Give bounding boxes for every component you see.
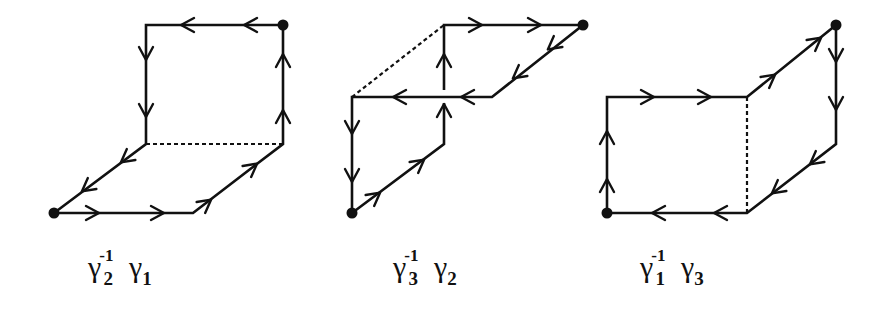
subscript: 1 <box>655 268 665 289</box>
path-segment <box>607 25 836 213</box>
label-gamma1inv-gamma3: γ-11γ3 <box>640 252 704 282</box>
basepoint-dot <box>278 20 289 31</box>
arrowhead-icon <box>197 200 212 213</box>
path-segment <box>54 25 283 213</box>
basepoint-dot <box>347 208 358 219</box>
basepoint-dot <box>602 208 613 219</box>
basepoint-dot <box>578 20 589 31</box>
panel-gamma2inv-gamma1 <box>49 18 291 220</box>
basepoint-dot <box>831 20 842 31</box>
arrowhead-icon <box>121 149 136 162</box>
dashed-edge <box>352 25 444 97</box>
gamma-symbol: γ <box>681 250 694 283</box>
inverse-exponent: -1 <box>651 246 665 265</box>
panel-gamma3inv-gamma2 <box>345 18 589 219</box>
path-segment <box>352 25 583 213</box>
subscript: 2 <box>447 268 457 289</box>
panel-gamma1inv-gamma3 <box>600 20 843 221</box>
subscript: 1 <box>142 268 152 289</box>
arrowhead-icon <box>366 193 381 206</box>
arrowhead-icon <box>82 178 97 191</box>
label-gamma2inv-gamma1: γ-12γ1 <box>88 252 152 282</box>
basepoint-dot <box>49 208 60 219</box>
subscript: 3 <box>694 268 704 289</box>
subscript: 3 <box>408 268 418 289</box>
path-segment <box>352 103 444 213</box>
arrowhead-icon <box>410 160 425 173</box>
label-gamma3inv-gamma2: γ-13γ2 <box>393 252 457 282</box>
inverse-exponent: -1 <box>99 246 113 265</box>
inverse-exponent: -1 <box>404 246 418 265</box>
gamma-symbol: γ <box>434 250 447 283</box>
subscript: 2 <box>103 268 113 289</box>
gamma-symbol: γ <box>129 250 142 283</box>
